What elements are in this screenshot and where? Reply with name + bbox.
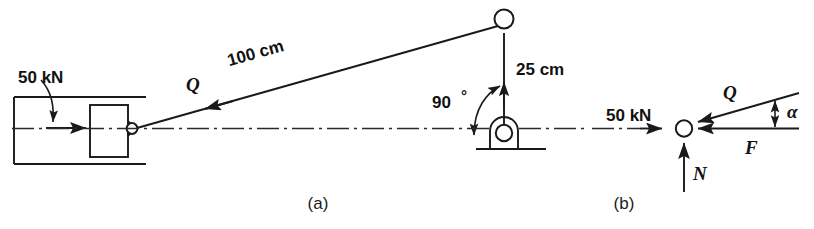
right-angle-degree-sign: ° [461, 87, 467, 104]
panel-a-group: 50 kN Q 100 cm 25 cm 90 ° [12, 10, 586, 165]
cable-force-arrow-a [205, 101, 233, 109]
post-height-label: 25 cm [516, 60, 564, 79]
applied-load-label-a: 50 kN [18, 68, 63, 87]
caption-panel-a: (a) [308, 194, 329, 213]
support-pin-icon [496, 125, 512, 141]
statics-figure: 50 kN Q 100 cm 25 cm 90 ° 50 kN [0, 0, 814, 229]
caption-panel-b: (b) [614, 194, 635, 213]
right-angle-label: 90 [432, 93, 451, 112]
friction-force-label: F [744, 137, 758, 158]
panel-b-group: 50 kN Q F N α [592, 82, 799, 192]
figure-canvas: 50 kN Q 100 cm 25 cm 90 ° 50 kN [0, 0, 814, 229]
normal-force-label: N [692, 163, 708, 184]
particle-icon [676, 120, 692, 136]
alpha-angle-label: α [787, 101, 798, 122]
post-top-pulley-icon [495, 10, 514, 29]
cable-length-label: 100 cm [225, 36, 286, 70]
sliding-block [90, 105, 128, 157]
pin-support [476, 117, 546, 149]
applied-load-label-b: 50 kN [606, 106, 651, 125]
cable-force-label-b: Q [723, 82, 737, 103]
cable-force-label-a: Q [186, 74, 200, 95]
cable-force-arrow-b [698, 93, 799, 122]
